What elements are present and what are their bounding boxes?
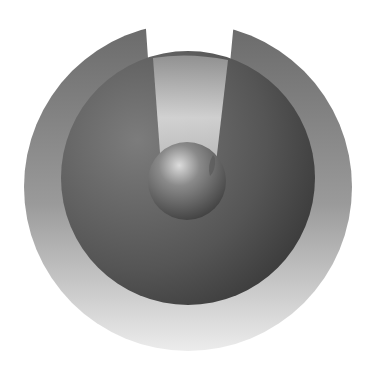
- central-sphere: [148, 142, 226, 220]
- emblem-graphic: [0, 0, 375, 370]
